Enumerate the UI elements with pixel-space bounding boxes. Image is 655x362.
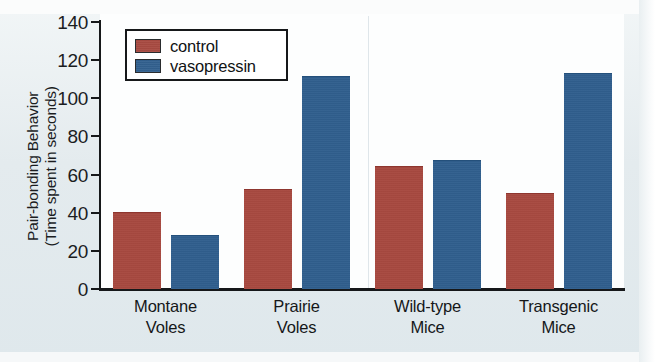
x-axis-label-line-1: Prairie: [231, 296, 362, 317]
x-axis-label-wild-type-mice: Wild-typeMice: [362, 296, 493, 338]
x-axis-label-montane-voles: MontaneVoles: [100, 296, 231, 338]
chart-figure: Pair-bonding Behavior (Time spent in sec…: [0, 0, 655, 362]
bar-vasopressin-wild-type-mice[interactable]: [433, 160, 481, 289]
y-axis-tick-label-0: 0: [14, 280, 88, 299]
figure-bottom-band: [0, 352, 655, 362]
figure-top-band: [0, 0, 655, 14]
y-axis-tick-label-140: 140: [14, 13, 88, 32]
legend-item-control[interactable]: control: [135, 36, 278, 56]
legend-swatch-control-icon: [135, 39, 161, 53]
y-axis-tick-label-60: 60: [14, 166, 88, 185]
legend-label-vasopressin: vasopressin: [170, 58, 256, 75]
legend-item-vasopressin[interactable]: vasopressin: [135, 56, 278, 76]
x-axis-label-line-1: Wild-type: [362, 296, 493, 317]
x-axis-label-line-1: Montane: [100, 296, 231, 317]
chart-legend: control vasopressin: [125, 29, 288, 81]
bar-vasopressin-prairie-voles[interactable]: [302, 76, 350, 289]
x-axis-label-line-2: Voles: [100, 317, 231, 338]
figure-right-band: [639, 0, 655, 362]
legend-label-control: control: [170, 38, 218, 55]
bar-vasopressin-transgenic-mice[interactable]: [564, 73, 612, 290]
x-axis-label-prairie-voles: PrairieVoles: [231, 296, 362, 338]
bar-control-montane-voles[interactable]: [113, 212, 161, 289]
x-axis-label-line-1: Transgenic: [493, 296, 624, 317]
x-axis-label-transgenic-mice: TransgenicMice: [493, 296, 624, 338]
bar-control-wild-type-mice[interactable]: [375, 166, 423, 289]
x-axis-label-line-2: Mice: [493, 317, 624, 338]
x-axis-label-line-2: Mice: [362, 317, 493, 338]
y-axis-tick-label-40: 40: [14, 204, 88, 223]
y-axis-tick-label-80: 80: [14, 127, 88, 146]
bar-vasopressin-montane-voles[interactable]: [171, 235, 219, 289]
y-axis-tick-labels: 020406080100120140: [4, 0, 88, 362]
bar-control-prairie-voles[interactable]: [244, 189, 292, 289]
y-axis-tick-label-20: 20: [14, 242, 88, 261]
y-axis-tick-label-120: 120: [14, 51, 88, 70]
y-axis-tick-label-100: 100: [14, 89, 88, 108]
legend-swatch-vasopressin-icon: [135, 59, 161, 73]
bar-control-transgenic-mice[interactable]: [506, 193, 554, 289]
x-axis-category-labels: MontaneVolesPrairieVolesWild-typeMiceTra…: [100, 296, 624, 352]
x-axis-label-line-2: Voles: [231, 317, 362, 338]
